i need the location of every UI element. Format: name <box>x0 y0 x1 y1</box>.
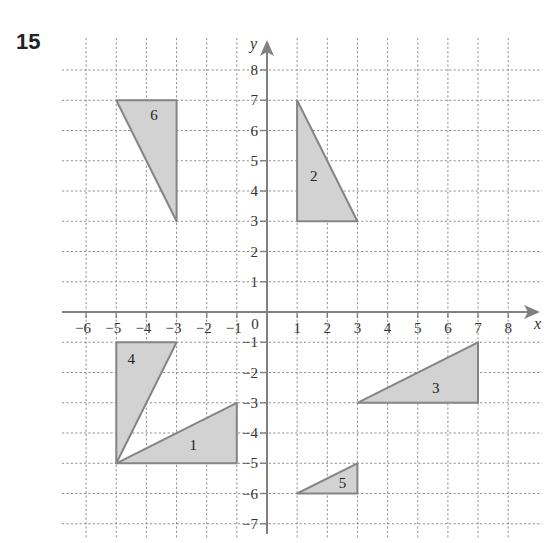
origin-label: 0 <box>251 316 259 332</box>
x-tick-label: 5 <box>414 320 422 336</box>
x-tick-label: −2 <box>196 320 212 336</box>
y-tick-label: −7 <box>242 516 258 532</box>
y-tick-label: 4 <box>251 183 259 199</box>
triangle-label: 2 <box>310 168 318 184</box>
triangle-label: 3 <box>432 380 440 396</box>
triangle-label: 6 <box>150 107 158 123</box>
y-axis-name: y <box>248 35 258 53</box>
triangle-label: 5 <box>339 475 347 491</box>
y-tick-label: 5 <box>251 153 259 169</box>
y-tick-label: 2 <box>251 244 259 260</box>
x-tick-label: −5 <box>105 320 121 336</box>
x-tick-label: 6 <box>444 320 452 336</box>
triangle-5 <box>297 463 357 493</box>
y-tick-label: 6 <box>251 123 259 139</box>
y-tick-label: −2 <box>242 365 258 381</box>
x-tick-label: 1 <box>293 320 301 336</box>
x-tick-label: −3 <box>166 320 182 336</box>
y-tick-label: −3 <box>242 395 258 411</box>
y-tick-label: −1 <box>242 334 258 350</box>
triangle-label: 1 <box>189 437 197 453</box>
x-tick-label: 3 <box>354 320 362 336</box>
y-tick-label: 3 <box>251 213 259 229</box>
x-axis-name: x <box>533 315 541 332</box>
triangle-label: 4 <box>128 351 136 367</box>
y-tick-label: −6 <box>242 486 258 502</box>
x-tick-label: 4 <box>384 320 392 336</box>
x-tick-label: 7 <box>474 320 482 336</box>
x-tick-label: 2 <box>324 320 332 336</box>
x-tick-label: −4 <box>135 320 151 336</box>
y-tick-label: 8 <box>251 62 259 78</box>
x-tick-label: −1 <box>226 320 242 336</box>
y-tick-label: 7 <box>251 92 259 108</box>
coordinate-plane: 123456 −6−5−4−3−2−112345678−7−6−5−4−3−2−… <box>0 0 556 543</box>
y-tick-label: 1 <box>251 274 259 290</box>
x-tick-label: 8 <box>504 320 512 336</box>
y-tick-label: −4 <box>242 425 258 441</box>
y-tick-label: −5 <box>242 455 258 471</box>
x-tick-label: −6 <box>75 320 91 336</box>
